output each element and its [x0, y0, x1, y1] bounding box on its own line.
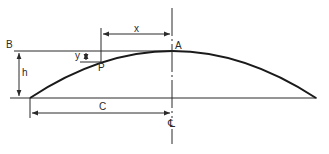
- label-centerline: ℄: [168, 118, 175, 129]
- label-a: A: [175, 41, 182, 51]
- arch-curve: [30, 51, 316, 98]
- label-c: C: [99, 102, 106, 112]
- label-x: x: [134, 24, 139, 34]
- label-p: P: [98, 63, 105, 73]
- label-b: B: [6, 40, 13, 50]
- label-y: y: [75, 51, 80, 61]
- label-h: h: [22, 68, 28, 78]
- arch-diagram: [0, 0, 329, 154]
